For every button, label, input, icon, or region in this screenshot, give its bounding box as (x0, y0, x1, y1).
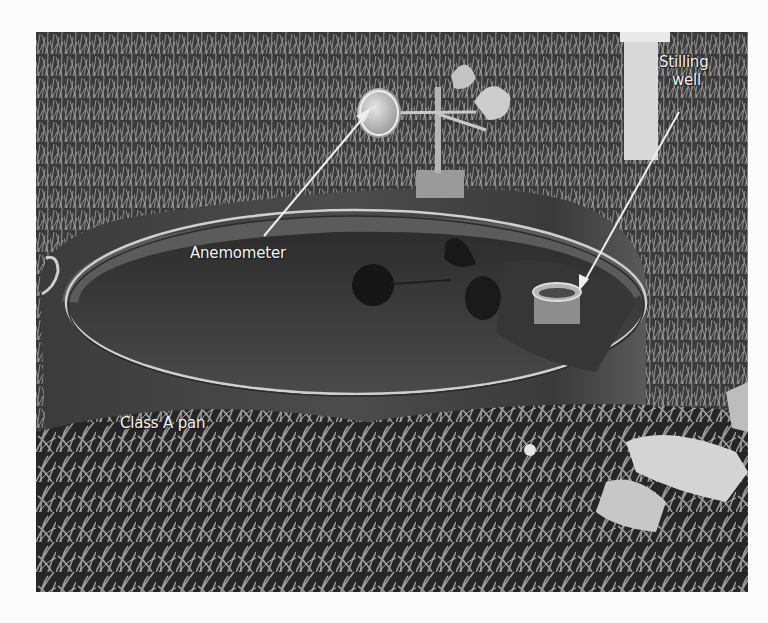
stilling-well-label-line1: Stilling (659, 54, 719, 71)
photo-scene (36, 32, 748, 592)
anemometer-label: Anemometer (190, 245, 286, 262)
class-a-pan-label: Class A pan (120, 415, 205, 432)
photograph: Anemometer Stilling well Class A pan (36, 32, 748, 592)
stilling-well-label-line2: well (672, 72, 701, 89)
